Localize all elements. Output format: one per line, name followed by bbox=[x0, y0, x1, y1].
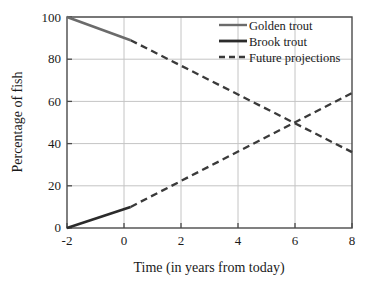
legend-label-brook-trout: Brook trout bbox=[249, 35, 308, 49]
ytick-label-60: 60 bbox=[48, 94, 61, 109]
ytick-label-40: 40 bbox=[48, 136, 61, 151]
fish-percentage-line-chart: 0 20 40 60 80 100 -2 0 2 4 6 8 Time (in … bbox=[0, 0, 372, 282]
ytick-label-0: 0 bbox=[55, 220, 62, 235]
x-axis-title: Time (in years from today) bbox=[133, 260, 284, 276]
xtick-label--2: -2 bbox=[62, 233, 73, 248]
legend-label-golden-trout: Golden trout bbox=[249, 19, 313, 33]
xtick-label-6: 6 bbox=[292, 233, 299, 248]
xtick-label-8: 8 bbox=[349, 233, 356, 248]
xtick-label-0: 0 bbox=[121, 233, 128, 248]
ytick-label-80: 80 bbox=[48, 51, 61, 66]
chart-container: 0 20 40 60 80 100 -2 0 2 4 6 8 Time (in … bbox=[0, 0, 372, 282]
ytick-label-20: 20 bbox=[48, 178, 61, 193]
ytick-label-100: 100 bbox=[42, 10, 62, 25]
xtick-label-4: 4 bbox=[235, 233, 242, 248]
y-axis-title: Percentage of fish bbox=[10, 71, 25, 172]
xtick-label-2: 2 bbox=[178, 233, 185, 248]
legend-label-future-projections: Future projections bbox=[249, 51, 340, 65]
